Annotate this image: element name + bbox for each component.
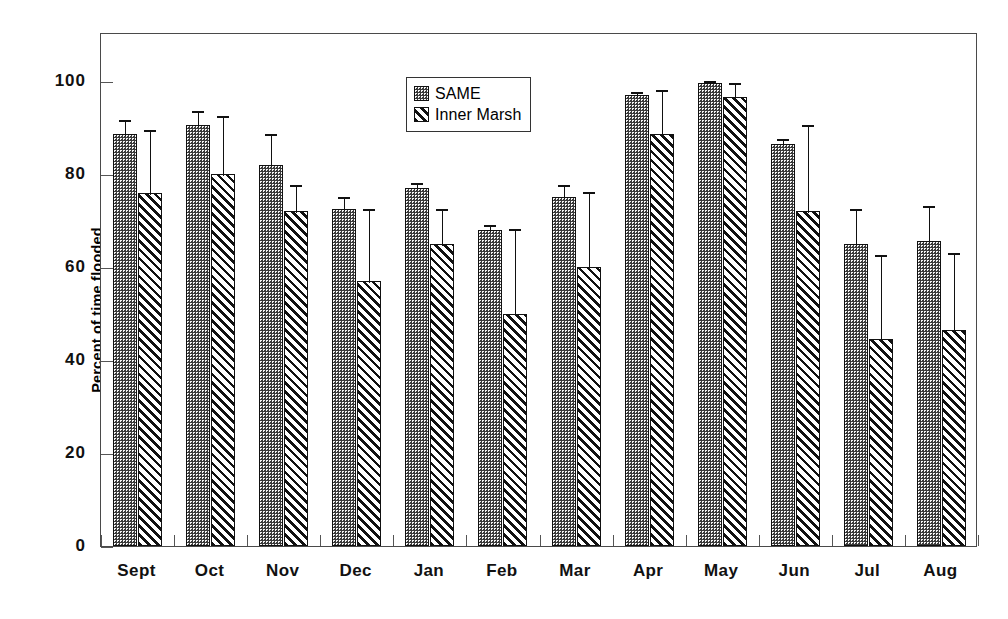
error-bar-cap — [411, 183, 423, 185]
x-tick-Aug — [905, 535, 906, 546]
error-bar-line — [589, 192, 590, 269]
y-tick-label-0: 0 — [30, 536, 86, 556]
bar-same-Oct — [186, 125, 210, 546]
x-tick-Jun — [759, 535, 760, 546]
legend-label-same: SAME — [435, 85, 481, 103]
error-bar-cap — [656, 90, 668, 92]
legend-swatch-inner-marsh-icon — [414, 107, 429, 122]
bar-inner-marsh-Oct — [211, 174, 235, 546]
error-bar-cap — [583, 192, 595, 194]
bar-inner-marsh-Mar — [577, 267, 601, 546]
bar-inner-marsh-Jun — [796, 211, 820, 546]
bar-inner-marsh-Jul — [869, 339, 893, 546]
y-tick-label-20: 20 — [30, 443, 86, 463]
error-bar-cap — [729, 83, 741, 85]
error-bar-line — [271, 134, 272, 167]
bar-same-Mar — [552, 197, 576, 546]
error-bar-line — [954, 253, 955, 332]
error-bar-cap — [704, 81, 716, 83]
error-bar-line — [929, 206, 930, 243]
y-tick-0 — [101, 547, 113, 548]
x-tick-end — [978, 535, 979, 546]
error-bar-line — [808, 125, 809, 213]
error-bar-line — [564, 185, 565, 199]
error-bar-cap — [119, 120, 131, 122]
bar-same-Sept — [113, 134, 137, 546]
bar-inner-marsh-Dec — [357, 281, 381, 546]
y-tick-label-60: 60 — [30, 257, 86, 277]
error-bar-cap — [948, 253, 960, 255]
bar-same-Jan — [405, 188, 429, 546]
y-tick-80 — [101, 175, 113, 176]
legend-item-inner-marsh: Inner Marsh — [414, 104, 521, 125]
error-bar-cap — [923, 206, 935, 208]
error-bar-line — [296, 185, 297, 213]
error-bar-line — [442, 209, 443, 246]
bar-inner-marsh-Apr — [650, 134, 674, 546]
bar-same-Feb — [478, 230, 502, 546]
x-tick-Dec — [320, 535, 321, 546]
y-tick-100 — [101, 82, 113, 83]
error-bar-cap — [484, 225, 496, 227]
error-bar-line — [198, 111, 199, 127]
bar-same-Dec — [332, 209, 356, 546]
bar-inner-marsh-May — [723, 97, 747, 546]
y-tick-label-80: 80 — [30, 164, 86, 184]
x-tick-Apr — [613, 535, 614, 546]
bar-inner-marsh-Aug — [942, 330, 966, 546]
error-bar-line — [150, 130, 151, 195]
y-tick-20 — [101, 454, 113, 455]
legend-swatch-same-icon — [414, 86, 429, 101]
x-tick-Feb — [466, 535, 467, 546]
bar-same-Aug — [917, 241, 941, 546]
error-bar-cap — [631, 92, 643, 94]
chart-legend: SAME Inner Marsh — [406, 77, 531, 132]
x-tick-Oct — [174, 535, 175, 546]
bar-inner-marsh-Jan — [430, 244, 454, 546]
plot-area: SAME Inner Marsh — [100, 33, 977, 547]
error-bar-cap — [509, 229, 521, 231]
legend-item-same: SAME — [414, 83, 521, 104]
error-bar-cap — [558, 185, 570, 187]
error-bar-cap — [875, 255, 887, 257]
bar-same-Apr — [625, 95, 649, 546]
bar-chart: Percent of time flooded 020406080100 SAM… — [0, 0, 1008, 619]
error-bar-line — [369, 209, 370, 283]
x-tick-May — [686, 535, 687, 546]
bar-inner-marsh-Feb — [503, 314, 527, 547]
error-bar-cap — [144, 130, 156, 132]
x-tick-Jan — [393, 535, 394, 546]
error-bar-cap — [436, 209, 448, 211]
x-tick-label-Aug: Aug — [895, 561, 985, 581]
error-bar-line — [344, 197, 345, 211]
error-bar-cap — [802, 125, 814, 127]
x-tick-Mar — [540, 535, 541, 546]
bar-same-Jul — [844, 244, 868, 546]
x-tick-Jul — [832, 535, 833, 546]
error-bar-line — [735, 83, 736, 99]
error-bar-cap — [850, 209, 862, 211]
error-bar-line — [515, 229, 516, 315]
y-tick-label-40: 40 — [30, 350, 86, 370]
error-bar-cap — [265, 134, 277, 136]
error-bar-cap — [363, 209, 375, 211]
bar-same-Nov — [259, 165, 283, 546]
error-bar-cap — [338, 197, 350, 199]
error-bar-line — [856, 209, 857, 246]
x-tick-Nov — [247, 535, 248, 546]
legend-label-inner-marsh: Inner Marsh — [435, 106, 521, 124]
error-bar-line — [223, 116, 224, 176]
y-tick-40 — [101, 361, 113, 362]
bar-same-Jun — [771, 144, 795, 546]
y-tick-label-100: 100 — [30, 71, 86, 91]
error-bar-line — [662, 90, 663, 137]
error-bar-line — [881, 255, 882, 341]
x-tick-Sept — [101, 535, 102, 546]
error-bar-cap — [290, 185, 302, 187]
error-bar-cap — [192, 111, 204, 113]
bar-inner-marsh-Sept — [138, 193, 162, 546]
bar-inner-marsh-Nov — [284, 211, 308, 546]
error-bar-line — [125, 120, 126, 136]
bar-same-May — [698, 83, 722, 546]
y-tick-60 — [101, 268, 113, 269]
